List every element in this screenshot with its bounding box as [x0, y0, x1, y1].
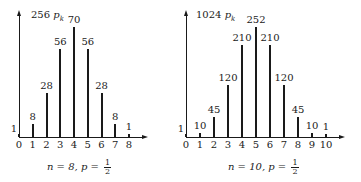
y-axis — [186, 14, 187, 138]
bar — [311, 133, 313, 137]
bar — [283, 85, 285, 137]
bar-value-label: 120 — [274, 73, 293, 83]
fraction: 12 — [291, 159, 298, 176]
bar — [255, 27, 257, 137]
bar-value-label: 1 — [178, 124, 184, 134]
x-tick-label: 5 — [253, 140, 259, 150]
x-tick-label: 6 — [267, 140, 273, 150]
y-axis-arrow-icon — [184, 10, 188, 16]
chart-right-binomial-n10: 1024 pk 10101452120321042525210612074581… — [0, 0, 361, 182]
x-tick-label: 4 — [239, 140, 245, 150]
x-tick-label: 9 — [309, 140, 315, 150]
bar — [241, 45, 243, 137]
x-tick-label: 3 — [225, 140, 231, 150]
bar — [297, 117, 299, 137]
bar — [185, 134, 187, 137]
x-axis-arrow-icon — [339, 135, 345, 139]
bar — [213, 117, 215, 137]
x-tick-label: 7 — [281, 140, 287, 150]
x-tick-label: 10 — [320, 140, 333, 150]
bar — [199, 133, 201, 137]
bar — [325, 134, 327, 137]
y-axis-label: 1024 pk — [196, 10, 235, 24]
bar-value-label: 45 — [292, 105, 305, 115]
bar-value-label: 252 — [246, 15, 265, 25]
bar-value-label: 1 — [323, 122, 329, 132]
bar-value-label: 10 — [194, 121, 207, 131]
bar-value-label: 120 — [218, 73, 237, 83]
x-tick-label: 8 — [295, 140, 301, 150]
chart-caption: n = 10, p = 12 — [228, 159, 299, 176]
bar-value-label: 210 — [260, 33, 279, 43]
bar — [227, 85, 229, 137]
x-tick-label: 1 — [197, 140, 203, 150]
x-tick-label: 0 — [183, 140, 189, 150]
bar-value-label: 10 — [306, 121, 319, 131]
bar-value-label: 210 — [232, 33, 251, 43]
bar — [269, 45, 271, 137]
x-tick-label: 2 — [211, 140, 217, 150]
bar-value-label: 45 — [208, 105, 221, 115]
x-axis — [186, 137, 340, 138]
